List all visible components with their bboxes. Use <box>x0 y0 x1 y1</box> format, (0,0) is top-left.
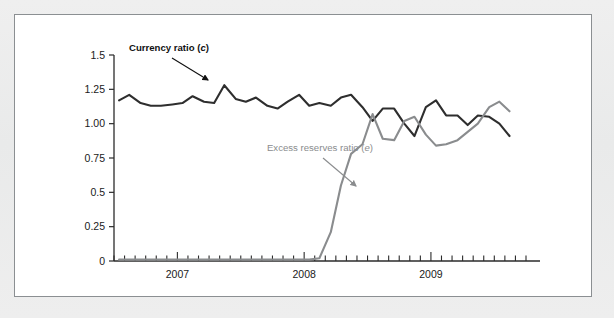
annotation-label-paren-currency: ) <box>206 42 209 53</box>
y-tick-label: 1.25 <box>85 83 106 95</box>
annotation-label-excess: Excess reserves ratio (e) <box>267 142 373 153</box>
annotation-arrow-excess <box>323 158 356 186</box>
y-tick-label: 1.00 <box>85 117 106 129</box>
x-tick-label: 2007 <box>166 268 190 280</box>
annotation-label-paren-excess: ) <box>370 142 373 153</box>
series-line-currency <box>119 85 509 136</box>
x-tick-label: 2008 <box>292 268 316 280</box>
y-tick-label: 0.25 <box>85 220 106 232</box>
y-tick-label: 0.5 <box>90 186 105 198</box>
series-line-excess <box>119 102 509 260</box>
y-tick-label: 0.75 <box>85 152 106 164</box>
y-tick-label: 1.5 <box>90 49 105 61</box>
y-tick-label: 0 <box>99 255 105 267</box>
annotation-label-text-excess: Excess reserves ratio ( <box>267 142 365 153</box>
x-tick-label: 2009 <box>419 268 443 280</box>
annotation-arrow-currency <box>172 58 208 80</box>
annotation-label-currency: Currency ratio (c) <box>129 42 209 53</box>
plot-area: 1.51.251.000.750.50.250200720082009Curre… <box>15 15 591 296</box>
chart-page: 1.51.251.000.750.50.250200720082009Curre… <box>0 0 614 318</box>
chart-frame: 1.51.251.000.750.50.250200720082009Curre… <box>14 14 592 297</box>
line-chart: 1.51.251.000.750.50.250200720082009Curre… <box>15 15 591 296</box>
annotation-label-text-currency: Currency ratio ( <box>129 42 201 53</box>
